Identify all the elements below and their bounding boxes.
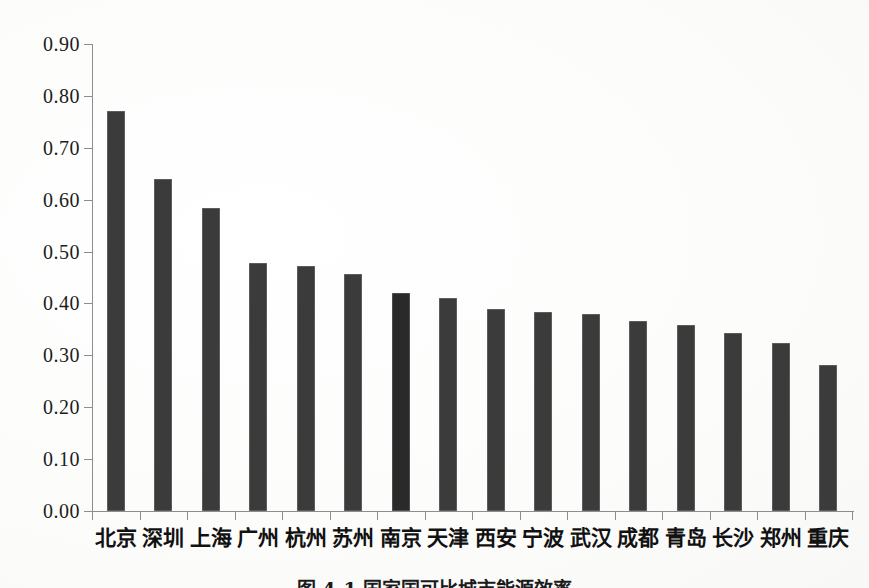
x-axis-label: 上海 (190, 521, 232, 551)
y-axis-tick-label: 0.00 (43, 500, 80, 523)
x-axis-label: 郑州 (760, 521, 802, 551)
x-axis-label: 天津 (427, 521, 469, 551)
x-axis-tick (710, 511, 711, 520)
bar (249, 263, 267, 511)
bar (534, 312, 552, 511)
y-axis-tick (84, 44, 92, 45)
x-axis-label: 宁波 (522, 521, 564, 551)
bar (677, 325, 695, 511)
x-axis-label: 成都 (617, 521, 659, 551)
y-axis-tick-label: 0.90 (43, 33, 80, 56)
figure-caption: 图 4-1 国家国可比城市能源效率 (0, 574, 869, 588)
x-axis-tick (330, 511, 331, 520)
y-axis-tick-label: 0.20 (43, 396, 80, 419)
y-axis-tick (84, 200, 92, 201)
x-axis-tick (187, 511, 188, 520)
y-axis-tick-label: 0.80 (43, 84, 80, 107)
x-axis-label: 武汉 (570, 521, 612, 551)
y-axis-tick (84, 355, 92, 356)
y-axis-tick (84, 96, 92, 97)
x-axis-label: 广州 (237, 521, 279, 551)
bar (724, 333, 742, 511)
y-axis-tick (84, 459, 92, 460)
x-axis-label: 重庆 (807, 521, 849, 551)
y-axis-tick (84, 148, 92, 149)
x-axis-tick (235, 511, 236, 520)
y-axis-tick (84, 252, 92, 253)
x-axis-tick (852, 511, 853, 520)
bar (154, 179, 172, 511)
bar (344, 274, 362, 511)
x-axis-tick (472, 511, 473, 520)
x-axis-tick (615, 511, 616, 520)
x-axis-tick (140, 511, 141, 520)
bar-chart-figure: 0.900.800.700.600.500.400.300.200.100.00… (0, 0, 869, 588)
y-axis-tick-label: 0.50 (43, 240, 80, 263)
x-axis-tick (425, 511, 426, 520)
y-axis-tick (84, 407, 92, 408)
x-axis-tick (757, 511, 758, 520)
bar (439, 298, 457, 511)
y-axis-tick-label: 0.10 (43, 448, 80, 471)
y-axis-tick (84, 303, 92, 304)
x-axis-label: 深圳 (142, 521, 184, 551)
y-axis-tick-label: 0.30 (43, 344, 80, 367)
x-axis-tick (520, 511, 521, 520)
y-axis-tick-label: 0.60 (43, 188, 80, 211)
y-axis-tick (84, 511, 92, 512)
bar (202, 208, 220, 511)
x-axis-label: 西安 (475, 521, 517, 551)
bar (297, 266, 315, 511)
y-axis-tick-label: 0.70 (43, 136, 80, 159)
x-axis-label: 杭州 (285, 521, 327, 551)
bar (582, 314, 600, 511)
bar (107, 111, 125, 511)
y-axis-tick-label: 0.40 (43, 292, 80, 315)
x-axis-label: 北京 (95, 521, 137, 551)
bar (487, 309, 505, 511)
x-axis-label: 青岛 (665, 521, 707, 551)
x-axis-tick (567, 511, 568, 520)
x-axis-tick (282, 511, 283, 520)
x-axis-line (92, 511, 854, 512)
bar (772, 343, 790, 511)
x-axis-tick (377, 511, 378, 520)
bar (819, 365, 837, 511)
x-axis-label: 长沙 (712, 521, 754, 551)
plot-area: 0.900.800.700.600.500.400.300.200.100.00 (92, 44, 852, 511)
x-axis-label: 苏州 (332, 521, 374, 551)
x-axis-tick (92, 511, 93, 520)
bar (629, 321, 647, 511)
x-axis-label: 南京 (380, 521, 422, 551)
x-axis-tick (805, 511, 806, 520)
bar-highlighted (392, 293, 410, 511)
x-axis-tick (662, 511, 663, 520)
